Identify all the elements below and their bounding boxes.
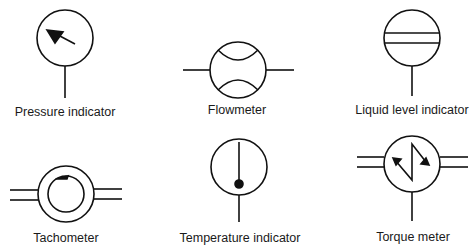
pressure-indicator-icon <box>37 10 93 98</box>
label-pressure-indicator: Pressure indicator <box>15 106 116 119</box>
torque-meter-icon <box>357 136 468 221</box>
label-liquid-level-indicator: Liquid level indicator <box>355 104 468 117</box>
label-torque-meter: Torque meter <box>376 231 450 244</box>
instrument-symbols-diagram <box>0 0 474 250</box>
label-flowmeter: Flowmeter <box>208 104 266 117</box>
liquid-level-indicator-icon <box>384 10 440 96</box>
label-tachometer: Tachometer <box>33 232 98 245</box>
flowmeter-icon <box>183 42 294 98</box>
temperature-indicator-icon <box>211 139 267 222</box>
tachometer-icon <box>10 166 122 222</box>
label-temperature-indicator: Temperature indicator <box>180 232 301 245</box>
